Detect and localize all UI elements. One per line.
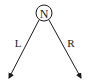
- right-arrow-icon: [49, 20, 81, 78]
- root-node: N: [36, 5, 52, 21]
- left-arrow-icon: [9, 20, 39, 78]
- edge-label-right: R: [67, 37, 75, 49]
- edge-right: R: [49, 20, 81, 78]
- edge-left: L: [9, 20, 39, 78]
- node-label: N: [40, 7, 49, 21]
- tree-diagram: N L R: [0, 0, 89, 82]
- edge-label-left: L: [15, 37, 22, 49]
